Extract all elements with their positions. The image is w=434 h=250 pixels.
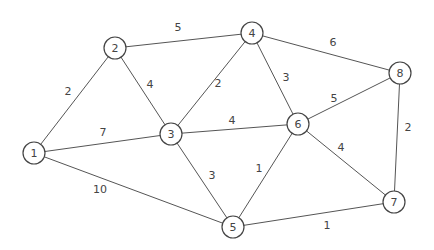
edge-weight-8-7: 2 bbox=[405, 121, 412, 134]
edge-weight-6-8: 5 bbox=[331, 92, 338, 105]
edge-2-3 bbox=[115, 48, 171, 134]
node-label: 3 bbox=[168, 128, 175, 141]
edge-weight-5-7: 1 bbox=[324, 219, 331, 232]
edge-6-7 bbox=[298, 124, 394, 202]
edge-weight-6-5: 1 bbox=[256, 162, 263, 175]
node-label: 7 bbox=[391, 196, 398, 209]
edge-weight-4-8: 6 bbox=[330, 36, 337, 49]
edge-5-7 bbox=[233, 202, 394, 227]
edge-3-4 bbox=[171, 33, 252, 134]
node-label: 5 bbox=[230, 221, 237, 234]
node-label: 2 bbox=[112, 42, 119, 55]
edges-layer bbox=[34, 33, 400, 227]
edge-8-7 bbox=[394, 73, 400, 202]
node-1: 1 bbox=[23, 142, 45, 164]
node-7: 7 bbox=[383, 191, 405, 213]
edge-weight-1-3: 7 bbox=[100, 126, 107, 139]
edge-weight-1-5: 10 bbox=[93, 183, 107, 196]
edge-6-8 bbox=[298, 73, 400, 124]
edge-weight-2-3: 4 bbox=[147, 78, 154, 91]
edge-weight-4-6: 3 bbox=[283, 71, 290, 84]
edge-4-8 bbox=[252, 33, 400, 73]
node-4: 4 bbox=[241, 22, 263, 44]
node-2: 2 bbox=[104, 37, 126, 59]
edge-1-5 bbox=[34, 153, 233, 227]
node-8: 8 bbox=[389, 62, 411, 84]
edge-2-4 bbox=[115, 33, 252, 48]
edge-weight-6-7: 4 bbox=[338, 141, 345, 154]
node-label: 4 bbox=[249, 27, 256, 40]
edge-6-5 bbox=[233, 124, 298, 227]
weighted-graph-diagram: 2710542433651421 12345678 bbox=[0, 0, 434, 250]
edge-weight-1-2: 2 bbox=[65, 85, 72, 98]
node-6: 6 bbox=[287, 113, 309, 135]
edge-weight-3-4: 2 bbox=[215, 77, 222, 90]
node-3: 3 bbox=[160, 123, 182, 145]
node-label: 1 bbox=[31, 147, 38, 160]
edge-4-6 bbox=[252, 33, 298, 124]
node-5: 5 bbox=[222, 216, 244, 238]
edge-3-5 bbox=[171, 134, 233, 227]
node-label: 8 bbox=[397, 67, 404, 80]
edge-weight-3-5: 3 bbox=[209, 169, 216, 182]
edge-weight-2-4: 5 bbox=[175, 21, 182, 34]
node-label: 6 bbox=[295, 118, 302, 131]
edge-weight-3-6: 4 bbox=[229, 114, 236, 127]
